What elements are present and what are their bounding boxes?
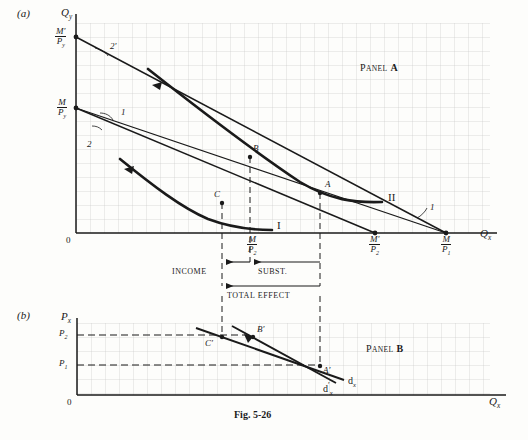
panel-b-y-axis-label-main: P: [61, 310, 68, 322]
y-intercept-m-over-py: M Py: [57, 98, 67, 119]
panel-a-x-axis-label-sub: x: [488, 234, 491, 242]
indifference-curve-II-label: II: [388, 192, 395, 203]
panel-a-grid: [76, 23, 490, 233]
panel-b-title-anel: ANEL: [372, 345, 394, 354]
panel-a-y-axis-label: Qy: [61, 7, 72, 21]
panel-b-x-axis-label-sub: x: [497, 402, 500, 410]
budget-line-2-prime-label: 2′: [110, 42, 116, 51]
panel-b-letter: B: [396, 343, 403, 354]
panel-a-origin: 0: [66, 236, 71, 245]
panel-b-x-axis-label: Qx: [489, 396, 500, 410]
demand-curve-dx-prime-label: d′x: [323, 382, 333, 397]
point-B-label: B: [253, 144, 259, 153]
x-intercept-2-den: P1: [441, 245, 451, 257]
point-A-prime-label: A′: [323, 366, 330, 375]
x-intercept-1-den: P2: [369, 245, 380, 257]
budget-line-1-lower-label: 1: [430, 203, 435, 212]
price-tick-P2: P2: [59, 329, 67, 341]
y-intercept-0-den: Py: [55, 37, 66, 49]
income-effect-label: INCOME: [172, 268, 207, 276]
demand-curve-dx-label: dx: [348, 376, 356, 389]
panel-a-y-axis-label-main: Q: [61, 6, 69, 18]
point-C-label: C: [214, 190, 220, 199]
point-A-label: A: [325, 180, 331, 189]
panel-a-x-axis-label: Qx: [480, 228, 491, 242]
panel-a-x-axis-label-main: Q: [480, 227, 488, 239]
panel-a-title-anel: ANEL: [366, 64, 388, 73]
substitution-effect-label: SUBST.: [258, 268, 287, 276]
x-intercept-0-den: P2: [247, 245, 257, 257]
panel-b-y-axis-label-sub: x: [68, 317, 71, 325]
panel-a-title: PANEL A: [360, 58, 398, 74]
x-intercept-m-prime-over-p2: M′ P2: [369, 235, 380, 256]
y-intercept-1-den: Py: [57, 108, 67, 120]
panel-a-letter: A: [390, 62, 398, 73]
y-intercept-m-prime-over-py: M′ Py: [55, 27, 66, 48]
total-effect-label: TOTAL EFFECT: [227, 292, 290, 300]
x-intercept-m-over-p1: M P1: [441, 235, 451, 256]
budget-line-1-upper-label: 1: [121, 108, 126, 117]
point-C-prime-label: C′: [205, 339, 213, 348]
panel-a-y-axis-label-sub: y: [69, 13, 72, 21]
panel-a-tag: (a): [17, 8, 30, 19]
panel-b-tag: (b): [17, 310, 30, 321]
indifference-curve-I-label: I: [277, 220, 281, 231]
panel-b-origin: 0: [67, 398, 72, 407]
x-intercept-m-over-p2: M P2: [247, 235, 257, 256]
figure-canvas: [0, 0, 528, 440]
panel-b-y-axis-label: Px: [61, 311, 71, 325]
budget-line-2-label: 2: [87, 140, 92, 149]
figure-container: (a) Qy Qx 0 M′ Py M Py M P2 M′ P2 M P1 2…: [0, 0, 528, 440]
panel-b-title: PANEL B: [366, 339, 404, 355]
point-B-prime-label: B′: [257, 325, 264, 334]
price-tick-P1: P1: [59, 359, 67, 371]
figure-caption: Fig. 5-26: [234, 410, 271, 420]
panel-b-x-axis-label-main: Q: [489, 395, 497, 407]
